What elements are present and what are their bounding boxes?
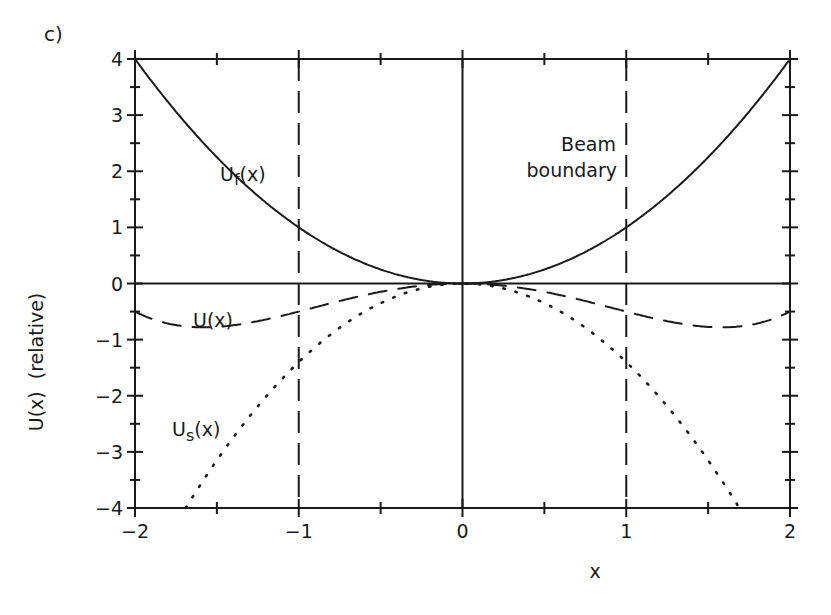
- y-tick-label: 0: [111, 273, 123, 295]
- x-tick-label: 2: [784, 520, 796, 542]
- axis-labels: −2−1012−4−3−2−101234: [95, 48, 796, 542]
- u-curve-label: U(x): [193, 309, 233, 331]
- us-label-main: U: [172, 418, 186, 440]
- y-tick-label: −2: [95, 385, 123, 407]
- us-curve-label: Us(x): [172, 418, 220, 445]
- beam-boundary-label-line1: Beam: [561, 133, 616, 155]
- us-label-sub: s: [186, 426, 194, 445]
- y-tick-label: 2: [111, 160, 123, 182]
- y-tick-label: −4: [95, 497, 123, 519]
- x-tick-label: 0: [456, 520, 468, 542]
- y-tick-label: −3: [95, 441, 123, 463]
- uf-curve-label: Uf(x): [220, 163, 266, 189]
- uf-label-tail: (x): [240, 163, 266, 185]
- y-axis-label: U(x) (relative): [25, 293, 47, 432]
- y-tick-label: −1: [95, 329, 123, 351]
- beam-boundary-label-line2: boundary: [526, 159, 617, 181]
- x-tick-label: −2: [121, 520, 149, 542]
- y-tick-label: 3: [111, 104, 123, 126]
- x-tick-label: 1: [620, 520, 632, 542]
- y-tick-label: 4: [111, 48, 123, 70]
- uf-label-main: U: [220, 163, 234, 185]
- x-tick-label: −1: [285, 520, 313, 542]
- us-label-tail: (x): [194, 418, 220, 440]
- x-axis-label: x: [589, 560, 600, 582]
- potential-chart: −2−1012−4−3−2−101234 U(x) (relative) x B…: [0, 0, 831, 615]
- y-tick-label: 1: [111, 216, 123, 238]
